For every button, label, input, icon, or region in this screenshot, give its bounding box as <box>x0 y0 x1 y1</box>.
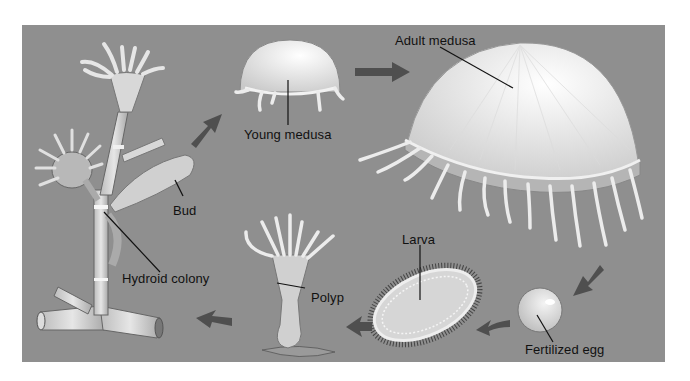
arrow-egg-to-larva <box>476 320 510 336</box>
label-adult-medusa: Adult medusa <box>395 33 476 48</box>
label-bud: Bud <box>173 203 196 218</box>
life-cycle-illustration <box>0 0 690 381</box>
label-hydroid-colony: Hydroid colony <box>122 271 209 286</box>
fertilized-egg <box>518 288 562 332</box>
arrow-larva-to-polyp <box>346 316 372 337</box>
hydroid-colony <box>36 44 194 338</box>
label-polyp: Polyp <box>311 290 344 305</box>
arrow-polyp-to-colony <box>196 310 232 328</box>
arrow-adult-to-egg <box>573 265 604 296</box>
young-medusa <box>236 40 343 110</box>
arrow-bud-to-young-medusa <box>191 114 222 148</box>
label-fertilized-egg: Fertilized egg <box>525 342 604 357</box>
label-larva: Larva <box>402 232 435 247</box>
label-young-medusa: Young medusa <box>244 127 331 142</box>
arrow-young-to-adult-medusa <box>355 62 410 82</box>
larva <box>358 250 492 361</box>
